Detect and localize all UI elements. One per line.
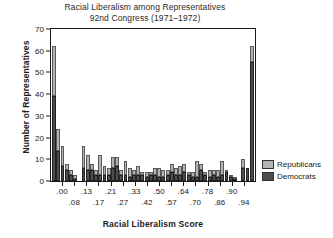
x-tick-label: .86 xyxy=(214,198,225,207)
x-tick-mark xyxy=(62,182,63,186)
bar-segment-democrats xyxy=(250,62,254,181)
bar-series-container xyxy=(51,29,255,181)
x-tick-mark xyxy=(86,182,87,186)
legend-item-democrats: Democrats xyxy=(262,172,321,181)
chart-title: Racial Liberalism among Representatives xyxy=(0,2,290,13)
chart-legend: Republicans Democrats xyxy=(262,160,321,184)
x-tick-label: .57 xyxy=(165,198,176,207)
y-tick-label: 20 xyxy=(4,133,44,142)
bar-segment-democrats xyxy=(233,179,237,181)
chart-title-block: Racial Liberalism among Representatives … xyxy=(0,2,290,24)
y-tick-label: 60 xyxy=(4,46,44,55)
x-tick-label: .78 xyxy=(202,187,213,196)
x-tick-label: .17 xyxy=(93,198,104,207)
bar-segment-republicans xyxy=(250,46,254,61)
legend-swatch-democrats xyxy=(262,172,274,181)
x-tick-label: .27 xyxy=(117,198,128,207)
bar-segment-republicans xyxy=(115,157,119,166)
x-tick-label: .08 xyxy=(69,198,80,207)
histogram-bar xyxy=(233,177,237,181)
x-tick-mark xyxy=(183,182,184,186)
y-tick-label: 70 xyxy=(4,25,44,34)
x-tick-label: .21 xyxy=(105,187,116,196)
x-tick-mark xyxy=(111,182,112,186)
x-tick-label: .70 xyxy=(190,198,201,207)
histogram-bar xyxy=(73,175,77,181)
x-axis-ticks xyxy=(50,182,256,186)
legend-label-democrats: Democrats xyxy=(277,172,316,181)
x-tick-mark xyxy=(147,182,148,186)
x-tick-mark xyxy=(244,182,245,186)
x-tick-label: .50 xyxy=(153,187,164,196)
x-tick-mark xyxy=(171,182,172,186)
x-axis-title: Racial Liberalism Score xyxy=(50,219,256,229)
x-tick-label: .94 xyxy=(238,198,249,207)
x-tick-label: .64 xyxy=(178,187,189,196)
x-tick-mark xyxy=(232,182,233,186)
legend-swatch-republicans xyxy=(262,160,274,169)
histogram-bar xyxy=(250,46,254,181)
plot-area xyxy=(50,28,256,182)
y-tick-label: 40 xyxy=(4,90,44,99)
chart-subtitle: 92nd Congress (1971–1972) xyxy=(0,13,290,24)
x-tick-mark xyxy=(74,182,75,186)
y-axis: 010203040506070 xyxy=(0,28,50,182)
chart-figure: Racial Liberalism among Representatives … xyxy=(0,0,333,238)
cropped-caption xyxy=(0,233,333,238)
legend-item-republicans: Republicans xyxy=(262,160,321,169)
x-axis-tick-labels: .00.08.13.17.21.27.33.42.50.57.64.70.78.… xyxy=(0,187,333,213)
y-tick-label: 50 xyxy=(4,68,44,77)
bar-segment-democrats xyxy=(73,179,77,181)
x-tick-label: .13 xyxy=(81,187,92,196)
x-tick-mark xyxy=(208,182,209,186)
x-tick-mark xyxy=(159,182,160,186)
bar-segment-republicans xyxy=(182,164,186,173)
x-tick-label: .33 xyxy=(129,187,140,196)
x-tick-label: .00 xyxy=(56,187,67,196)
x-tick-mark xyxy=(220,182,221,186)
bar-segment-republicans xyxy=(241,159,245,168)
bar-segment-republicans xyxy=(52,46,56,96)
x-tick-label: .42 xyxy=(141,198,152,207)
legend-label-republicans: Republicans xyxy=(277,160,321,169)
x-tick-label: .90 xyxy=(226,187,237,196)
y-tick-label: 10 xyxy=(4,155,44,164)
x-tick-mark xyxy=(195,182,196,186)
x-tick-mark xyxy=(135,182,136,186)
x-tick-mark xyxy=(98,182,99,186)
y-tick-label: 0 xyxy=(4,177,44,186)
y-tick-label: 30 xyxy=(4,111,44,120)
x-tick-mark xyxy=(123,182,124,186)
